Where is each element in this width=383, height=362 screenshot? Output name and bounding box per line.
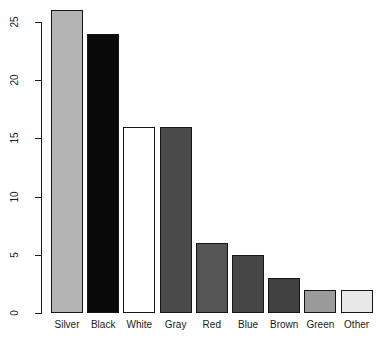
- bar-green: [304, 290, 336, 313]
- y-tick-mark: [35, 197, 41, 198]
- y-tick-label: 25: [10, 7, 20, 37]
- bar-silver: [51, 10, 83, 313]
- y-tick-label: 5: [10, 240, 20, 270]
- y-tick-mark: [35, 255, 41, 256]
- y-tick-label: 10: [10, 182, 20, 212]
- bar-chart: 0510152025 SilverBlackWhiteGrayRedBlueBr…: [0, 0, 383, 362]
- x-axis-labels: SilverBlackWhiteGrayRedBlueBrownGreenOth…: [50, 318, 383, 338]
- y-tick-label: 15: [10, 123, 20, 153]
- y-tick-mark: [35, 138, 41, 139]
- bar-blue: [232, 255, 264, 313]
- y-tick-mark: [35, 22, 41, 23]
- y-tick-label: 20: [10, 65, 20, 95]
- bar-gray: [160, 127, 192, 313]
- y-axis-line: [41, 22, 42, 314]
- bar-red: [196, 243, 228, 313]
- bar-white: [123, 127, 155, 313]
- y-tick-label: 0: [10, 298, 20, 328]
- plot-area: [50, 0, 383, 314]
- bar-brown: [268, 278, 300, 313]
- y-tick-mark: [35, 313, 41, 314]
- y-tick-mark: [35, 80, 41, 81]
- y-axis: 0510152025: [0, 0, 50, 362]
- bar-black: [87, 34, 119, 313]
- bar-other: [341, 290, 373, 313]
- x-tick-label-other: Other: [335, 318, 379, 332]
